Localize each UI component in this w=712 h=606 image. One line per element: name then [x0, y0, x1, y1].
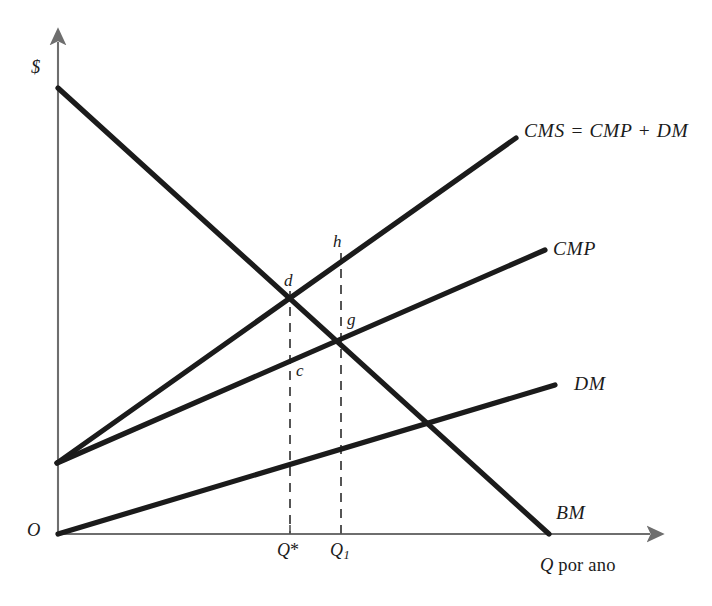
plot-canvas [0, 0, 712, 606]
curve-cmp [57, 250, 545, 463]
q-star-asterisk: * [290, 540, 299, 560]
curve-cms [57, 138, 516, 463]
x-tick-marks [290, 525, 341, 534]
point-label-g: g [347, 311, 356, 328]
x-tick-label-q-star: Q* [277, 541, 299, 559]
x-axis-label-symbol: Q [540, 555, 553, 575]
y-axis-label: $ [31, 58, 40, 77]
curve-label-cms: CMS = CMP + DM [524, 121, 688, 141]
x-axis-label-text: por ano [553, 555, 615, 575]
curve-label-bm: BM [556, 503, 585, 523]
q-one-base: Q [330, 540, 343, 560]
curve-bm [58, 88, 549, 534]
q-one-subscript: 1 [344, 548, 350, 562]
point-label-d: d [284, 272, 293, 289]
q-star-base: Q [277, 540, 290, 560]
point-label-h: h [333, 233, 342, 250]
x-axis-label: Q por ano [540, 556, 616, 575]
curve-label-dm: DM [574, 374, 606, 394]
curve-label-cmp: CMP [553, 239, 596, 259]
curve-group [57, 88, 555, 534]
economics-diagram: CMS = CMP + DM CMP DM BM d g h c $ O Q p… [0, 0, 712, 606]
point-label-c: c [296, 362, 304, 379]
x-tick-label-q-one: Q1 [330, 541, 349, 559]
axis-group [58, 42, 650, 534]
origin-label: O [27, 521, 40, 540]
